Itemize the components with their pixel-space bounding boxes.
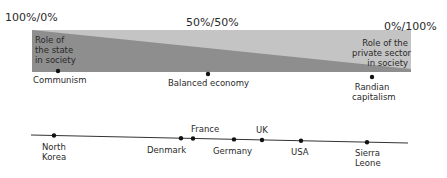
uk-label: UK [256, 125, 268, 135]
state-role-label: Role of the state in society [35, 35, 76, 65]
communism-dot [56, 69, 60, 73]
sierra-leone-label: Sierra Leone [355, 148, 381, 168]
private-role-line-1: Role of the [352, 38, 408, 48]
denmark-label: Denmark [147, 145, 186, 155]
private-role-line-3: in society [352, 58, 408, 68]
randian-capitalism-dot [370, 75, 374, 79]
private-role-line-2: private sector [352, 48, 408, 58]
sierra-leone-line-1: Sierra [355, 148, 381, 158]
scale-left-label: 100%/0% [5, 11, 58, 24]
north-korea-line-1: North [42, 142, 66, 152]
randian-line-2: capitalism [352, 92, 392, 102]
uk-dot [260, 138, 264, 142]
country-axis-line [31, 135, 408, 143]
state-role-line-2: the state [35, 45, 76, 55]
north-korea-label: North Korea [42, 142, 66, 162]
state-role-line-1: Role of [35, 35, 76, 45]
sierra-leone-line-2: Leone [355, 158, 381, 168]
north-korea-line-2: Korea [42, 152, 66, 162]
france-dot [191, 136, 195, 140]
usa-label: USA [291, 147, 309, 157]
balanced-economy-dot [206, 72, 210, 76]
sierra-leone-dot [365, 140, 369, 144]
state-role-line-3: in society [35, 55, 76, 65]
germany-label: Germany [213, 146, 252, 156]
north-korea-dot [52, 133, 56, 137]
balanced-economy-label: Balanced economy [168, 78, 249, 88]
france-label: France [191, 124, 219, 134]
germany-dot [232, 137, 236, 141]
scale-center-label: 50%/50% [186, 16, 239, 29]
communism-label: Communism [33, 75, 87, 85]
denmark-dot [179, 136, 183, 140]
usa-dot [299, 139, 303, 143]
scale-right-label: 0%/100% [384, 20, 437, 33]
private-role-label: Role of the private sector in society [352, 38, 408, 68]
randian-line-1: Randian [352, 82, 392, 92]
randian-capitalism-label: Randian capitalism [352, 82, 392, 102]
